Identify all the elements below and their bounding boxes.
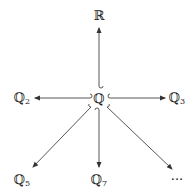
node-ellipsis-label: ···	[171, 172, 183, 187]
node-q5: ℚ5	[14, 173, 30, 188]
node-q3-label: ℚ	[169, 90, 180, 105]
node-q3: ℚ3	[169, 91, 185, 106]
node-ellipsis: ···	[171, 173, 183, 188]
hook-icon	[95, 108, 99, 110]
node-q7-label: ℚ	[91, 172, 102, 187]
node-q5-sub: 5	[25, 179, 30, 188]
node-q-label: ℚ	[93, 91, 104, 106]
diagram-canvas: ℚ ℝ ℚ2 ℚ3 ℚ5 ℚ7 ···	[0, 0, 194, 195]
node-q2: ℚ2	[14, 91, 30, 106]
node-q3-sub: 3	[180, 97, 185, 106]
hook-icon	[89, 104, 91, 107]
inclusion-arrow-more	[107, 107, 172, 169]
node-q2-label: ℚ	[14, 90, 25, 105]
node-q5-label: ℚ	[14, 172, 25, 187]
node-r: ℝ	[94, 9, 105, 24]
hook-icon	[107, 104, 109, 107]
hook-icon	[108, 94, 110, 98]
node-q2-sub: 2	[25, 97, 30, 106]
inclusion-arrow-q5	[33, 107, 91, 167]
node-q7-sub: 7	[102, 179, 107, 188]
node-q7: ℚ7	[91, 173, 107, 188]
hook-icon	[99, 86, 103, 88]
node-r-label: ℝ	[94, 8, 105, 23]
hook-icon	[90, 94, 92, 98]
node-q: ℚ	[93, 92, 104, 105]
